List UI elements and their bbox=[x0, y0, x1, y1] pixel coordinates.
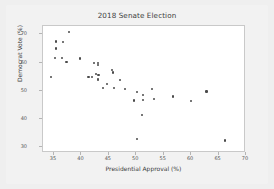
scatter-point bbox=[97, 79, 99, 81]
x-tick-label: 60 bbox=[180, 155, 200, 161]
scatter-point bbox=[142, 94, 144, 96]
scatter-point bbox=[133, 99, 135, 101]
scatter-point bbox=[205, 90, 207, 92]
scatter-point bbox=[172, 95, 174, 97]
x-tick-mark bbox=[53, 152, 54, 155]
scatter-point bbox=[136, 138, 138, 140]
y-tick-mark bbox=[39, 90, 42, 91]
x-tick-label: 50 bbox=[125, 155, 145, 161]
scatter-point bbox=[55, 47, 57, 49]
figure-canvas: 2018 Senate Election 7060504030 35404550… bbox=[0, 0, 274, 189]
scatter-point bbox=[151, 88, 153, 90]
scatter-point bbox=[112, 71, 114, 73]
y-tick-mark bbox=[39, 62, 42, 63]
scatter-point bbox=[91, 76, 93, 78]
scatter-point bbox=[61, 57, 63, 59]
x-tick-mark bbox=[218, 152, 219, 155]
y-tick-label: 30 bbox=[5, 143, 27, 149]
x-tick-label: 35 bbox=[43, 155, 63, 161]
y-tick-mark bbox=[39, 33, 42, 34]
x-tick-label: 70 bbox=[235, 155, 255, 161]
scatter-point bbox=[68, 31, 70, 33]
scatter-point bbox=[141, 114, 143, 116]
scatter-point bbox=[142, 99, 144, 101]
x-tick-label: 45 bbox=[98, 155, 118, 161]
x-tick-label: 40 bbox=[70, 155, 90, 161]
scatter-point bbox=[93, 62, 95, 64]
x-tick-label: 65 bbox=[208, 155, 228, 161]
x-tick-mark bbox=[245, 152, 246, 155]
scatter-point bbox=[102, 87, 104, 89]
scatter-point bbox=[62, 41, 64, 43]
scatter-points-layer bbox=[43, 26, 244, 151]
scatter-point bbox=[224, 139, 226, 141]
x-tick-mark bbox=[190, 152, 191, 155]
scatter-point bbox=[190, 100, 192, 102]
scatter-point bbox=[106, 83, 108, 85]
x-tick-mark bbox=[163, 152, 164, 155]
chart-title: 2018 Senate Election bbox=[0, 11, 274, 20]
scatter-point bbox=[124, 88, 126, 90]
scatter-point bbox=[136, 91, 138, 93]
scatter-point bbox=[55, 40, 57, 42]
scatter-point bbox=[87, 76, 89, 78]
scatter-point bbox=[54, 57, 56, 59]
scatter-point bbox=[50, 76, 52, 78]
scatter-point bbox=[97, 74, 99, 76]
x-tick-mark bbox=[80, 152, 81, 155]
x-axis-label: Presidential Approval (%) bbox=[42, 165, 245, 172]
scatter-point bbox=[79, 57, 81, 59]
scatter-point bbox=[97, 64, 99, 66]
x-tick-label: 55 bbox=[153, 155, 173, 161]
plot-area bbox=[42, 25, 245, 152]
y-tick-mark bbox=[39, 118, 42, 119]
scatter-point bbox=[119, 79, 121, 81]
scatter-point bbox=[153, 98, 155, 100]
x-tick-mark bbox=[108, 152, 109, 155]
y-tick-mark bbox=[39, 146, 42, 147]
scatter-point bbox=[113, 87, 115, 89]
scatter-point bbox=[65, 61, 67, 63]
x-tick-mark bbox=[135, 152, 136, 155]
